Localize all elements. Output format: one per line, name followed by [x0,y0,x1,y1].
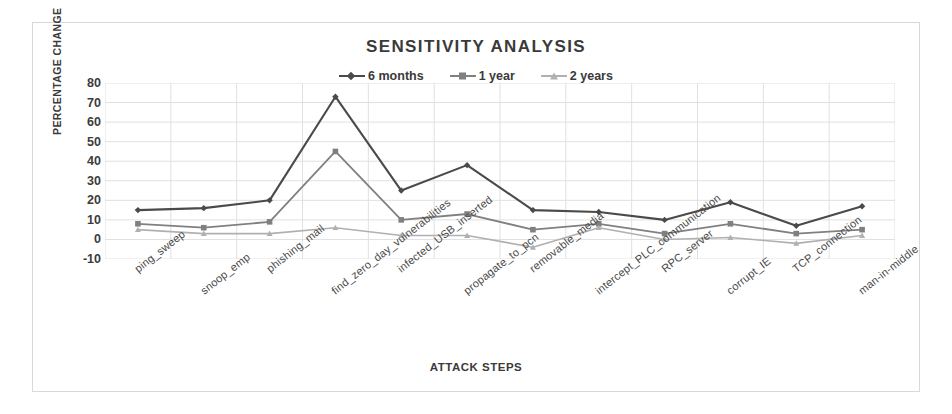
legend-label: 6 months [368,69,424,83]
legend-label: 2 years [570,69,613,83]
legend-entry[interactable]: 2 years [541,69,613,83]
legend-marker-diamond-icon [347,72,355,80]
data-point-marker-diamond [201,205,207,211]
legend-marker-square-icon [459,73,466,80]
y-tick-label: 0 [67,233,101,246]
chart-legend: 6 months1 year2 years [33,69,919,83]
y-tick-label: 30 [67,175,101,188]
y-tick-label: -10 [67,253,101,266]
y-tick-label: 50 [67,136,101,149]
data-point-marker-square [859,227,865,233]
data-point-marker-diamond [661,217,667,223]
y-axis-tick-labels: 80706050403020100-10 [61,83,101,259]
plot-area [105,83,895,259]
legend-line-swatch [339,75,365,77]
y-tick-label: 40 [67,155,101,168]
chart-svg [105,83,895,259]
data-point-marker-diamond [859,203,865,209]
data-point-marker-square [267,219,273,225]
legend-label: 1 year [479,69,515,83]
chart-container: SENSITIVITY ANALYSIS 6 months1 year2 yea… [32,22,920,392]
data-point-marker-square [135,221,141,227]
x-tick-label: corrupt_IE [724,255,773,297]
data-point-marker-square [201,225,207,231]
data-point-marker-square [793,231,799,237]
data-point-marker-square [728,221,734,227]
data-point-marker-diamond [793,223,799,229]
legend-line-swatch [541,75,567,77]
legend-line-swatch [450,75,476,77]
data-point-marker-square [398,217,404,223]
legend-marker-triangle-icon [550,73,558,80]
data-point-marker-square [333,149,339,155]
y-tick-label: 20 [67,194,101,207]
y-tick-label: 80 [67,77,101,90]
y-tick-label: 60 [67,116,101,129]
legend-entry[interactable]: 1 year [450,69,515,83]
legend-entry[interactable]: 6 months [339,69,424,83]
y-tick-label: 70 [67,97,101,110]
y-tick-label: 10 [67,214,101,227]
chart-title: SENSITIVITY ANALYSIS [33,37,919,57]
data-point-marker-diamond [135,207,141,213]
x-axis-title: ATTACK STEPS [33,361,919,373]
